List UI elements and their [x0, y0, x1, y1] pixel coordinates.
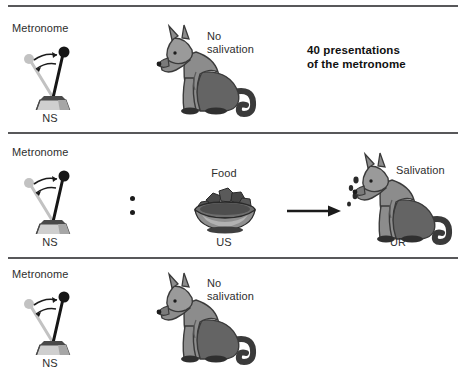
metronome-label: Metronome — [12, 268, 69, 281]
metronome-icon — [14, 162, 86, 234]
metronome-label: Metronome — [12, 22, 69, 35]
pairing-dot — [130, 196, 135, 201]
arrow-right-icon — [286, 202, 342, 220]
dog-salivating-icon — [336, 146, 458, 250]
pairing-dot — [130, 210, 135, 215]
metronome-icon — [14, 283, 86, 355]
ns-label: NS — [20, 236, 80, 249]
divider-top — [8, 5, 458, 7]
divider-bottom — [8, 257, 458, 259]
dog-state-label: Salivation — [396, 164, 445, 177]
ns-label: NS — [20, 112, 80, 125]
conditioning-diagram: Metronome NS — [0, 0, 464, 384]
presentations-note: 40 presentations of the metronome — [307, 43, 406, 71]
ur-label: UR — [368, 236, 428, 249]
food-bowl-icon — [186, 182, 264, 238]
dog-state-label: No salivation — [207, 30, 254, 56]
metronome-icon — [14, 38, 86, 110]
us-label: US — [185, 236, 263, 249]
food-label: Food — [185, 167, 263, 180]
divider-middle — [8, 132, 458, 134]
metronome-label: Metronome — [12, 146, 69, 159]
dog-state-label: No salivation — [207, 277, 254, 303]
ns-label: NS — [20, 357, 80, 370]
